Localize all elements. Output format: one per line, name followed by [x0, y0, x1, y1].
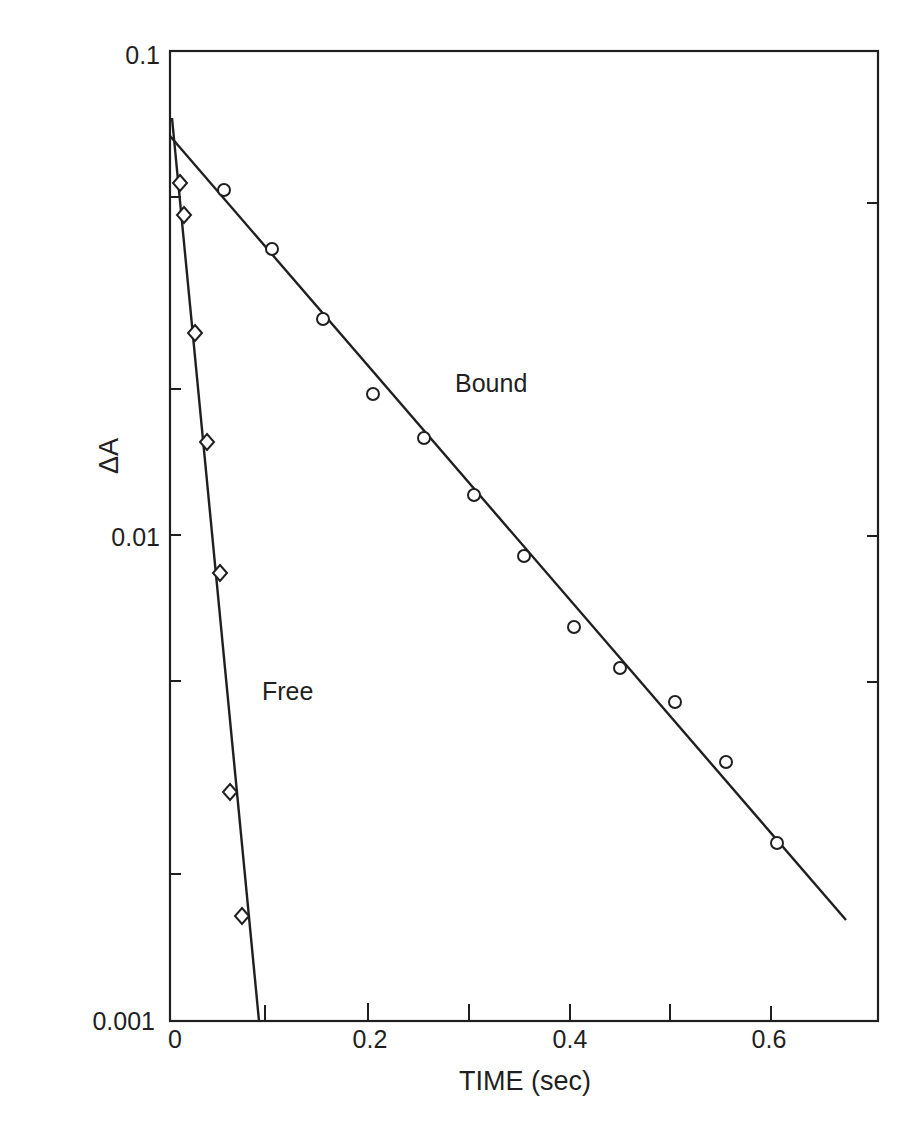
- y-tick-label-0.01: 0.01: [111, 523, 160, 551]
- free-point: [235, 908, 249, 924]
- bound-point: [771, 837, 783, 849]
- bound-point: [367, 388, 379, 400]
- plot-frame: [170, 51, 878, 1021]
- free-point: [223, 784, 237, 800]
- bound-point: [614, 662, 626, 674]
- bound-point: [418, 432, 430, 444]
- bound-point: [669, 696, 681, 708]
- free-label: Free: [262, 677, 313, 705]
- x-tick-label-0.6: 0.6: [752, 1025, 787, 1053]
- x-tick-label-0.2: 0.2: [353, 1025, 388, 1053]
- bound-label: Bound: [455, 369, 527, 397]
- free-markers: [173, 175, 249, 924]
- free-point: [177, 207, 191, 223]
- x-tick-label-0: 0: [168, 1025, 182, 1053]
- x-axis-title: TIME (sec): [459, 1066, 591, 1096]
- y-tick-label-0.1: 0.1: [125, 41, 160, 69]
- bound-point: [568, 621, 580, 633]
- y-axis-ticks-left: [170, 197, 181, 874]
- bound-point: [266, 243, 278, 255]
- x-tick-label-0.4: 0.4: [553, 1025, 588, 1053]
- bound-point: [218, 184, 230, 196]
- y-axis-ticks-right: [867, 203, 878, 682]
- bound-point: [518, 550, 530, 562]
- bound-point: [468, 489, 480, 501]
- bound-point: [720, 756, 732, 768]
- bound-point: [317, 313, 329, 325]
- free-point: [188, 325, 202, 341]
- decay-chart: 0.1 0.01 0.001 0 0.2 0.4 0.6 TIME (sec) …: [0, 0, 924, 1146]
- y-tick-label-0.001: 0.001: [92, 1007, 155, 1035]
- x-axis-ticks: [265, 1003, 771, 1021]
- y-axis-title: ΔA: [94, 438, 124, 474]
- free-point: [173, 175, 187, 191]
